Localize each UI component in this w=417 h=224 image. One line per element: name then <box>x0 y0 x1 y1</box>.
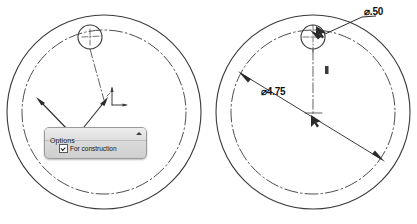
right-center-pick-cursor <box>311 115 321 128</box>
hole-diameter-label: ⌀.50 <box>364 6 383 17</box>
bolt-circle-diameter-label: ⌀4.75 <box>261 86 285 97</box>
hole-diameter-leader <box>325 16 376 34</box>
centerline-midpoint-tick <box>325 66 329 74</box>
diameter-arrowhead-end <box>372 151 385 163</box>
cad-viewport: Options For construction <box>0 0 417 224</box>
diameter-arrowhead-start <box>238 71 251 83</box>
right-view-drawing <box>0 0 417 224</box>
